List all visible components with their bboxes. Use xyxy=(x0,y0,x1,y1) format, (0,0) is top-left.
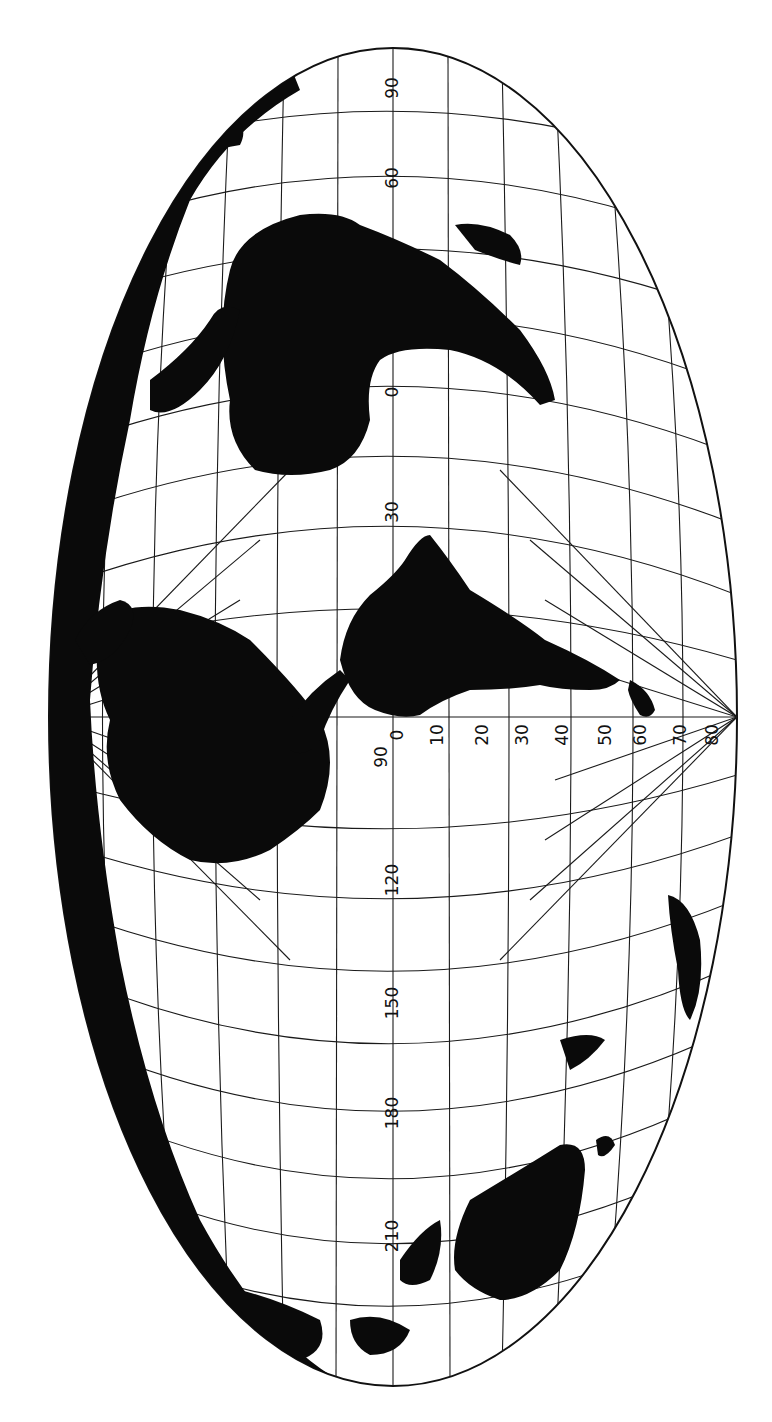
lat-label-50: 50 xyxy=(595,724,615,746)
lat-label-80: 80 xyxy=(702,724,722,746)
lat-label-30: 30 xyxy=(512,724,532,746)
lat-label-40: 40 xyxy=(552,724,572,746)
latitude-labels: 0 10 20 30 40 50 60 70 80 xyxy=(387,724,722,746)
lat-label-0: 0 xyxy=(387,730,407,741)
lat-label-20: 20 xyxy=(472,724,492,746)
axis-label-210: 210 xyxy=(382,1220,402,1252)
world-map: 90 60 0 30 90 120 150 180 210 0 10 20 30… xyxy=(0,0,772,1422)
axis-label-30: 30 xyxy=(382,501,402,523)
axis-label-180: 180 xyxy=(382,1097,402,1129)
lat-label-60: 60 xyxy=(630,724,650,746)
lat-label-10: 10 xyxy=(427,724,447,746)
lat-label-70: 70 xyxy=(670,724,690,746)
axis-label-120: 120 xyxy=(382,864,402,896)
globe: 90 60 0 30 90 120 150 180 210 0 10 20 30… xyxy=(49,48,737,1386)
axis-label-60: 60 xyxy=(382,167,402,189)
axis-label-0: 0 xyxy=(382,387,402,398)
axis-label-90: 90 xyxy=(371,746,391,768)
axis-label-90-top: 90 xyxy=(382,77,402,99)
axis-label-150: 150 xyxy=(382,987,402,1019)
